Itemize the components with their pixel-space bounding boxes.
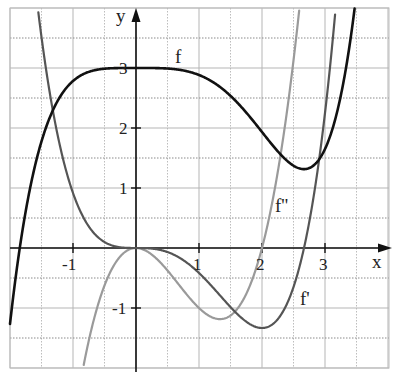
y-tick-label-neg1: -1 (112, 299, 126, 318)
x-axis-label: x (372, 251, 382, 272)
x-tick-label-2: 2 (256, 255, 265, 274)
y-tick-label-2: 2 (119, 119, 128, 138)
x-tick-label-1: 1 (193, 255, 202, 274)
y-tick-label-3: 3 (119, 59, 128, 78)
grid (10, 8, 389, 368)
y-tick-label-1: 1 (119, 179, 128, 198)
curves (10, 9, 355, 365)
curve-label-f-double-prime: f'' (275, 195, 288, 216)
y-axis-arrow-icon (132, 8, 141, 22)
curve-f-prime (38, 12, 335, 328)
y-axis-label: y (116, 5, 126, 26)
curve-label-f: f (175, 46, 182, 67)
curve-label-f-prime: f' (300, 288, 310, 309)
axes (10, 8, 392, 372)
x-tick-label-3: 3 (319, 255, 328, 274)
x-tick-label-neg1: -1 (62, 255, 76, 274)
function-graph: x y -1 1 2 3 3 2 1 -1 f f'' f' (0, 0, 397, 382)
curve-f (10, 9, 355, 324)
